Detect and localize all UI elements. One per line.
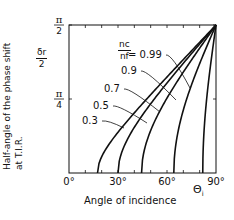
series-label-0.99: = 0.99 — [128, 49, 162, 60]
y-symbol-denominator: 2 — [36, 59, 47, 69]
y-axis-label-line1: Half-angle of the phase shift — [2, 43, 12, 170]
series-label-0.3: 0.3 — [82, 115, 98, 126]
series-label-0.5: 0.5 — [93, 100, 109, 111]
x-tick-label: 90° — [207, 176, 225, 187]
series-leader-0.3 — [102, 121, 124, 128]
y-symbol-numerator: δr — [36, 48, 47, 59]
legend-parameter-fraction: nc nf — [118, 40, 131, 61]
series-leader-0.7 — [124, 89, 160, 112]
x-tick-label: 60° — [158, 176, 176, 187]
y-tick-label-den: 4 — [56, 100, 62, 110]
x-axis-symbol: Θi — [193, 184, 204, 198]
series-label-0.9: 0.9 — [121, 65, 137, 76]
legend-param-denominator: nf — [118, 51, 131, 61]
x-symbol-subscript: i — [202, 190, 204, 198]
legend-param-numerator: nc — [118, 40, 131, 51]
x-tick-label: 30° — [109, 176, 127, 187]
y-axis-label: Half-angle of the phase shift at T.I.R. — [2, 40, 16, 170]
y-symbol-fraction: δr 2 — [36, 48, 47, 69]
series-curve-0.7 — [142, 25, 216, 173]
x-symbol-theta: Θ — [193, 183, 202, 196]
y-axis-label-line2: at T.I.R. — [14, 136, 24, 170]
y-tick-label-num: π — [56, 14, 63, 25]
x-tick-label: 0° — [63, 176, 74, 187]
series-label-0.7: 0.7 — [104, 83, 120, 94]
series-curve-0.3 — [98, 25, 216, 173]
y-tick-label-num: π — [56, 88, 63, 99]
x-axis-label: Angle of incidence — [84, 196, 176, 206]
y-tick-label-den: 2 — [56, 26, 62, 36]
